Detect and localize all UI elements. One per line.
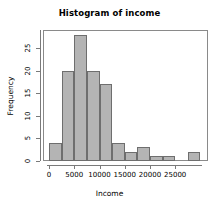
y-axis-title-label: Frequency: [6, 76, 15, 115]
x-axis-tick: [125, 165, 126, 169]
x-axis-tick-label: 0: [47, 171, 51, 179]
histogram-bar: [87, 71, 100, 161]
y-axis-tick-label: 15: [18, 87, 38, 99]
bars-layer: [43, 30, 208, 161]
histogram-bar: [150, 156, 163, 161]
histogram-bar: [62, 71, 75, 161]
x-axis-tick-label: 20000: [139, 171, 161, 179]
x-axis-tick-label: 5000: [65, 171, 83, 179]
histogram-bar: [188, 152, 201, 161]
histogram-bar: [100, 84, 113, 161]
histogram-figure: Histogram of income Frequency Income 051…: [0, 0, 219, 210]
histogram-bar: [137, 147, 150, 161]
x-axis-tick: [150, 165, 151, 169]
histogram-bar: [112, 143, 125, 161]
x-axis-tick-label: 25000: [164, 171, 186, 179]
histogram-bar: [163, 156, 176, 161]
y-axis-tick-label: 25: [18, 42, 38, 54]
y-axis-tick-label: 0: [18, 155, 38, 167]
x-axis-tick: [175, 165, 176, 169]
histogram-bar: [125, 152, 138, 161]
y-axis-title: Frequency: [4, 30, 16, 161]
y-axis-tick-label: 20: [18, 65, 38, 77]
x-axis-tick: [100, 165, 101, 169]
x-axis-tick-label: 15000: [114, 171, 136, 179]
histogram-bar: [74, 35, 87, 161]
histogram-bar: [49, 143, 62, 161]
y-axis-tick-label: 10: [18, 110, 38, 122]
x-axis-tick: [49, 165, 50, 169]
y-axis-line: [40, 30, 41, 161]
y-axis-tick-label: 5: [18, 132, 38, 144]
x-axis-tick-label: 10000: [88, 171, 110, 179]
chart-title: Histogram of income: [0, 8, 219, 18]
x-axis-tick: [74, 165, 75, 169]
x-axis-title: Income: [0, 189, 219, 198]
